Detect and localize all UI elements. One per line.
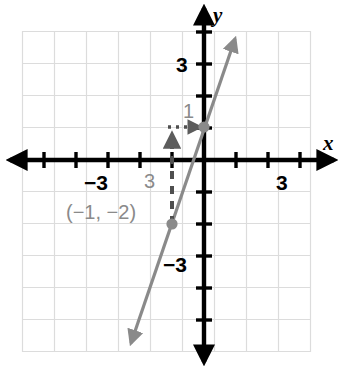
coordinate-plane-graph: y x −3 3 3 −3 3 1 (−1, −2): [0, 0, 344, 368]
run-annotation-label: 1: [183, 100, 194, 122]
x-tick-label-pos3: 3: [276, 171, 288, 194]
graph-canvas: y x −3 3 3 −3 3 1 (−1, −2): [0, 0, 344, 368]
y-axis-label: y: [210, 3, 223, 27]
x-tick-label-neg3: −3: [84, 171, 108, 194]
point-coordinate-label: (−1, −2): [66, 201, 136, 223]
point-y-intercept: [198, 121, 209, 132]
rise-annotation-label: 3: [144, 170, 155, 192]
x-axis-label: x: [322, 131, 334, 155]
point-minus1-minus2: [166, 218, 177, 229]
grid-lines: [22, 31, 311, 352]
y-axis: [196, 8, 212, 362]
y-tick-label-neg3: −3: [163, 253, 187, 276]
y-tick-label-pos3: 3: [176, 53, 188, 76]
